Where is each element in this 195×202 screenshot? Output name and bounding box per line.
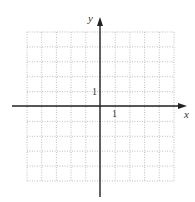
y-tick-label: 1 <box>92 86 97 97</box>
coordinate-plane: y x 1 1 <box>0 0 195 202</box>
x-axis-label: x <box>183 108 189 120</box>
x-tick-label: 1 <box>112 108 117 119</box>
y-axis-arrow-icon <box>97 17 103 26</box>
y-axis-label: y <box>87 12 93 24</box>
